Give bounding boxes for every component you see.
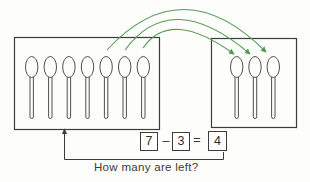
spoon-icon [81, 57, 93, 78]
spoon-icon [44, 57, 56, 78]
spoon-icon [137, 57, 149, 78]
spoon-icon [86, 75, 89, 119]
spoon-icon [49, 75, 52, 119]
spoon-icon [142, 75, 145, 119]
spoon-icon [249, 57, 261, 78]
spoon-icon [67, 75, 70, 119]
spoon-icon [253, 75, 256, 119]
result-bracket-line [65, 132, 224, 160]
spoon-icon [26, 57, 38, 78]
spoon-icon [231, 57, 243, 78]
spoon-icon [272, 75, 275, 119]
spoon-icon [235, 75, 238, 119]
spoon-icon [104, 75, 107, 119]
spoon-icon [63, 57, 75, 78]
spoon-icon [123, 75, 126, 119]
diagram-scene [0, 0, 310, 182]
spoon-icon [30, 75, 33, 119]
right-spoon-group [231, 57, 280, 119]
subtraction-diagram: 7 – = 3 4 How many are left? [0, 0, 310, 182]
spoon-icon [100, 57, 112, 78]
spoon-icon [119, 57, 131, 78]
spoon-icon [267, 57, 279, 78]
